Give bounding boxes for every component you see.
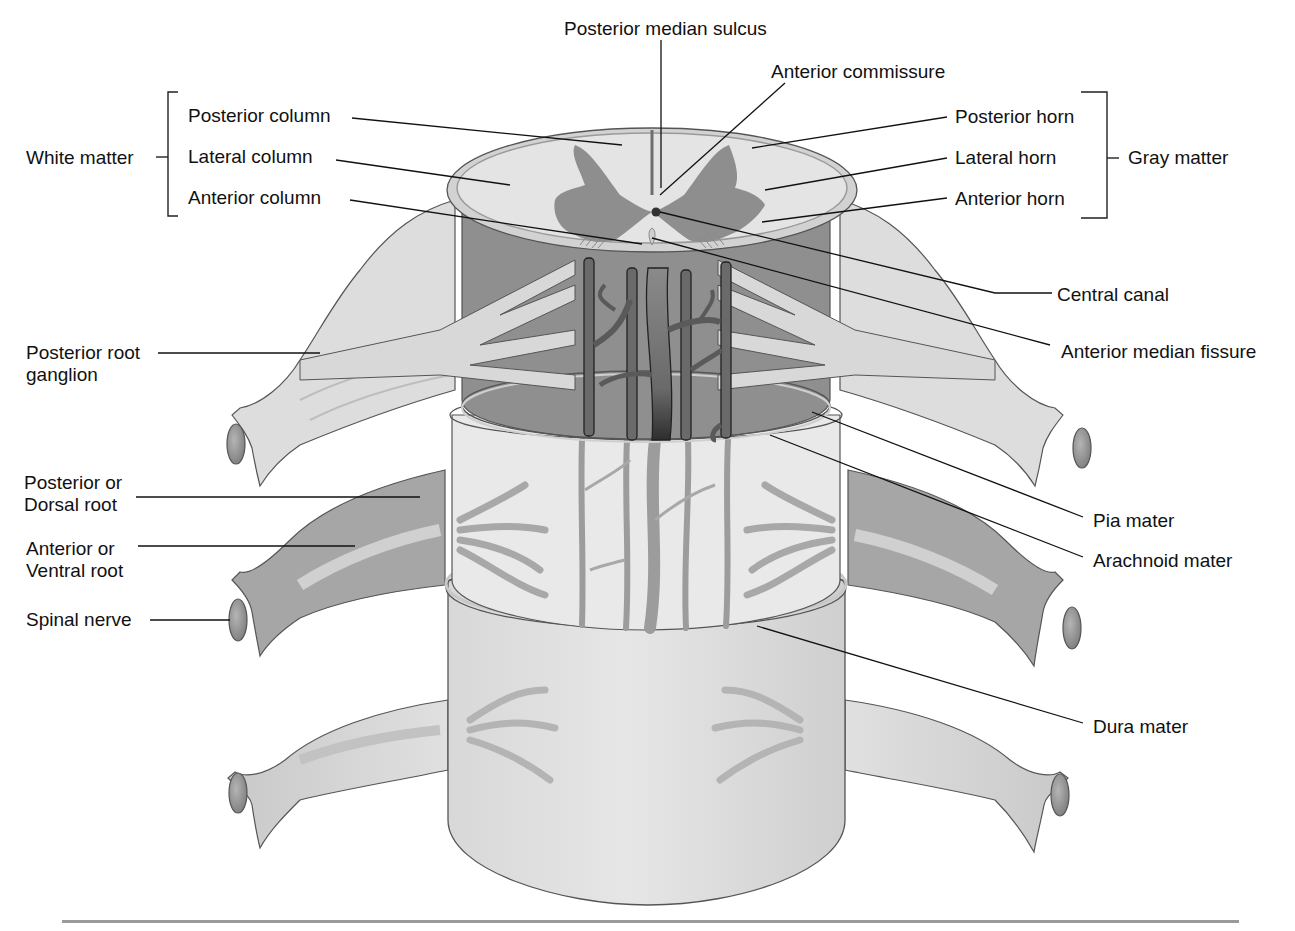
label-arachnoid-mater: Arachnoid mater — [1093, 550, 1232, 572]
label-pia-mater: Pia mater — [1093, 510, 1174, 532]
white-matter-bracket — [156, 92, 178, 216]
label-posterior-column: Posterior column — [188, 105, 331, 127]
label-central-canal: Central canal — [1057, 284, 1169, 306]
label-anterior-column: Anterior column — [188, 187, 321, 209]
lower-spinal-nerve-left — [228, 700, 448, 848]
label-lateral-horn: Lateral horn — [955, 147, 1056, 169]
lower-spinal-nerve-right — [845, 700, 1069, 852]
label-posterior-dorsal-root: Posterior or Dorsal root — [24, 472, 139, 516]
gray-matter-bracket — [1081, 92, 1119, 218]
middle-spinal-nerve-left — [229, 470, 445, 656]
middle-spinal-nerve-right — [848, 470, 1081, 666]
bottom-divider — [62, 920, 1239, 923]
label-white-matter: White matter — [26, 147, 134, 169]
label-gray-matter: Gray matter — [1128, 147, 1228, 169]
label-dura-mater: Dura mater — [1093, 716, 1188, 738]
label-spinal-nerve: Spinal nerve — [26, 609, 132, 631]
spinal-cord-diagram: Posterior median sulcus Anterior commiss… — [0, 0, 1295, 931]
cord-cross-section — [447, 128, 857, 252]
label-anterior-ventral-root: Anterior or Ventral root — [26, 538, 141, 582]
label-anterior-horn: Anterior horn — [955, 188, 1065, 210]
label-anterior-commissure: Anterior commissure — [771, 61, 945, 83]
label-posterior-median-sulcus: Posterior median sulcus — [564, 18, 767, 40]
illustration — [0, 0, 1295, 931]
label-posterior-horn: Posterior horn — [955, 106, 1074, 128]
label-posterior-root-ganglion: Posterior root ganglion — [26, 342, 161, 386]
label-lateral-column: Lateral column — [188, 146, 313, 168]
label-anterior-median-fissure: Anterior median fissure — [1061, 341, 1256, 363]
